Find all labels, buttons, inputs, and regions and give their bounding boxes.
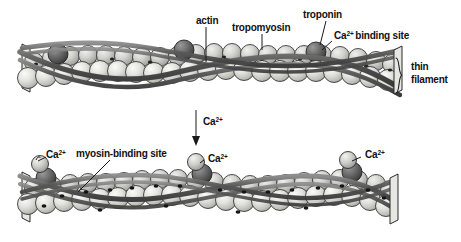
label-calcium-right-sup: 2+ — [377, 149, 385, 156]
label-calcium-right-prefix: Ca — [365, 149, 378, 160]
label-calcium-middle-sup: 2+ — [220, 153, 228, 160]
label-actin: actin — [196, 15, 218, 26]
label-myosin-binding-site: myosin-binding site — [76, 148, 167, 159]
label-thin-filament-line2: filament — [411, 74, 449, 85]
thin-filament-diagram: actin tropomyosin troponin Ca2+binding s… — [0, 0, 461, 242]
label-ca-binding-site: Ca2+binding site — [334, 30, 410, 42]
label-calcium-middle-prefix: Ca — [208, 153, 221, 164]
label-ca-binding-site-text: binding site — [355, 30, 409, 41]
label-calcium-transition-sup: 2+ — [215, 116, 223, 123]
filament-right-cap-bottom — [390, 174, 398, 224]
label-tropomyosin: tropomyosin — [232, 22, 290, 33]
label-calcium-left-sup: 2+ — [58, 149, 66, 156]
label-calcium-left-prefix: Ca — [46, 149, 59, 160]
label-ca-binding-site-sup: 2+ — [346, 30, 354, 37]
troponin-sphere — [48, 44, 68, 64]
label-thin-filament-line1: thin — [411, 61, 429, 72]
label-ca-binding-site-prefix: Ca — [334, 30, 347, 41]
label-calcium-transition-prefix: Ca — [203, 116, 216, 127]
filament-right-cap-top — [394, 46, 402, 94]
label-troponin: troponin — [303, 9, 342, 20]
